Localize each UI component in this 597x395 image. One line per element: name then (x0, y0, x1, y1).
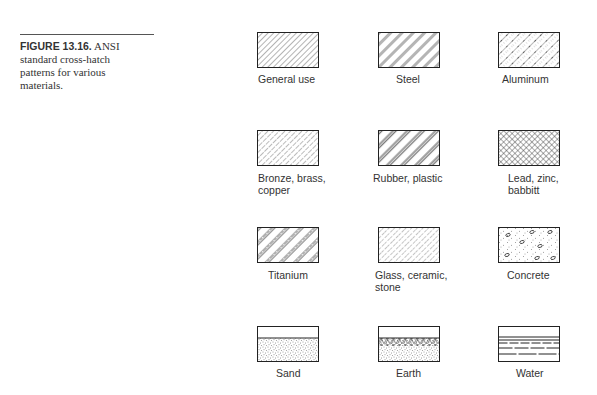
concrete-label: Concrete (507, 269, 550, 281)
caption-text-1: ANSI (94, 40, 120, 52)
steel-label: Steel (396, 73, 420, 85)
general-use-label: General use (258, 73, 315, 85)
steel-hatch-swatch (378, 32, 440, 68)
bronze-label: Bronze, brass, copper (258, 172, 326, 196)
aluminum-hatch-swatch (498, 32, 560, 68)
bronze-hatch-swatch (257, 130, 319, 166)
water-label: Water (516, 367, 544, 379)
glass-label: Glass, ceramic, stone (375, 269, 447, 293)
earth-hatch-swatch (378, 326, 440, 362)
aluminum-label: Aluminum (502, 73, 549, 85)
rubber-hatch-swatch (378, 130, 440, 166)
titanium-label: Titanium (268, 269, 308, 281)
sand-label: Sand (276, 367, 301, 379)
lead-label-line2: babbitt (508, 184, 540, 196)
caption-text-2: standard cross-hatch (20, 53, 110, 65)
general-use-hatch-swatch (257, 32, 319, 68)
caption-text-3: patterns for various (20, 66, 106, 78)
glass-label-line1: Glass, ceramic, (375, 269, 447, 281)
lead-label: Lead, zinc, babbitt (508, 172, 559, 196)
caption-text-4: materials. (20, 79, 63, 91)
bronze-label-line1: Bronze, brass, (258, 172, 326, 184)
lead-label-line1: Lead, zinc, (508, 172, 559, 184)
glass-hatch-swatch (378, 227, 440, 263)
figure-caption: FIGURE 13.16. ANSI standard cross-hatch … (20, 40, 160, 92)
bronze-label-line2: copper (258, 184, 290, 196)
earth-label: Earth (396, 367, 421, 379)
titanium-hatch-swatch (257, 227, 319, 263)
glass-label-line2: stone (375, 281, 401, 293)
sand-hatch-swatch (257, 326, 319, 362)
figure-label: FIGURE 13.16. (20, 40, 92, 52)
caption-rule (20, 34, 154, 35)
lead-hatch-swatch (498, 130, 560, 166)
concrete-hatch-swatch (498, 227, 560, 263)
water-hatch-swatch (498, 326, 560, 362)
rubber-label: Rubber, plastic (373, 172, 442, 184)
